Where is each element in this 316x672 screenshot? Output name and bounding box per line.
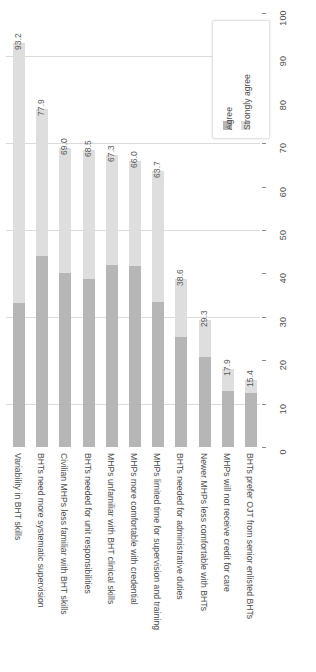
category-label: BHTs prefer OJT from senior enlisted BHT…	[245, 453, 255, 619]
category-label: MHPs limited time for supervision and tr…	[152, 453, 162, 630]
y-axis-tick-label: 100	[278, 10, 288, 26]
y-axis-tick-mark	[262, 187, 266, 188]
y-axis-tick-mark	[262, 230, 266, 231]
bar-value-label: 68.5	[83, 140, 93, 157]
chart-legend: AgreeStrongly agree	[212, 20, 270, 139]
y-axis-tick-mark	[262, 317, 266, 318]
bar-value-label: 63.7	[152, 161, 162, 178]
category-label: MHPs more comfortable with credential	[129, 453, 139, 605]
bar-value-label: 67.3	[106, 145, 116, 162]
y-axis: 0102030405060708090100	[262, 0, 316, 672]
category-label: BHTs needed for unit responsibilities	[83, 453, 93, 594]
bar-value-label: 93.2	[13, 33, 23, 50]
y-axis-tick-label: 50	[278, 230, 288, 240]
category-label: BHTs need more systematic supervision	[36, 453, 46, 608]
category-label: Variability in BHT skills	[13, 453, 23, 540]
category-label: Civilian MHPs less familiar with BHT ski…	[59, 453, 69, 614]
legend-label: Strongly agree	[242, 74, 252, 130]
y-axis-tick-mark	[262, 447, 266, 448]
category-axis-labels: Variability in BHT skillsBHTs need more …	[0, 447, 262, 672]
y-axis-tick-label: 90	[278, 56, 288, 66]
y-axis-tick-mark	[262, 273, 266, 274]
y-axis-tick-label: 60	[278, 186, 288, 196]
y-axis-tick-label: 80	[278, 100, 288, 110]
category-label: MHPs unfamiliar with BHT clinical skills	[106, 453, 116, 604]
category-label: BHTs needed for administrative duties	[175, 453, 185, 600]
bar-value-label: 38.6	[175, 270, 185, 287]
stacked-bar-chart: 93.277.969.068.567.366.063.738.629.317.9…	[0, 0, 316, 672]
category-label: MHPs will not receive credit for care	[222, 453, 232, 592]
bar-value-label: 15.4	[245, 370, 255, 387]
legend-label: Agree	[224, 107, 234, 130]
bar-value-label: 77.9	[36, 99, 46, 116]
bar-value-label: 17.9	[222, 359, 232, 376]
y-axis-tick-label: 20	[278, 360, 288, 370]
bar-value-label: 29.3	[199, 310, 209, 327]
y-axis-tick-mark	[262, 13, 266, 14]
y-axis-tick-label: 10	[278, 403, 288, 413]
bar-value-label: 69.0	[59, 138, 69, 155]
bar-value-label: 66.0	[129, 151, 139, 168]
y-axis-tick-label: 0	[278, 449, 288, 454]
y-axis-tick-label: 30	[278, 317, 288, 327]
y-axis-tick-label: 70	[278, 143, 288, 153]
category-label: Newer MHPs less comfortable with BHTs	[199, 453, 209, 611]
y-axis-tick-mark	[262, 360, 266, 361]
y-axis-tick-mark	[262, 143, 266, 144]
y-axis-tick-label: 40	[278, 273, 288, 283]
y-axis-tick-mark	[262, 404, 266, 405]
